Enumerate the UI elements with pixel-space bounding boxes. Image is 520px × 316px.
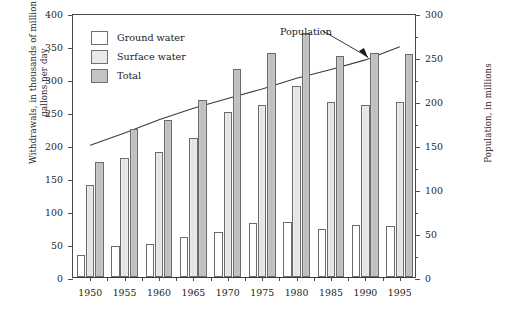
y-axis-right-minor-tick (415, 213, 418, 214)
population-annotation-label: Population (280, 26, 332, 37)
chart-figure: Withdrawals, in thousands of million gal… (0, 0, 520, 316)
y-axis-left-tick-label: 300 (23, 75, 63, 86)
bar-ground-water-1970 (214, 232, 223, 277)
bar-ground-water-1975 (249, 223, 258, 277)
x-axis-minor-tick (245, 278, 246, 281)
bar-total-1955 (130, 129, 139, 278)
bar-surface-water-1950 (86, 185, 95, 277)
bar-ground-water-1980 (283, 222, 292, 277)
x-axis-minor-tick (211, 278, 212, 281)
x-axis-minor-tick (279, 278, 280, 281)
legend-swatch-icon (91, 50, 108, 64)
y-axis-left-tick (68, 15, 73, 16)
y-axis-left-tick-label: 50 (23, 240, 63, 251)
y-axis-right-minor-tick (415, 257, 418, 258)
x-axis-tick (193, 277, 194, 281)
x-axis-minor-tick (107, 278, 108, 281)
bar-surface-water-1965 (189, 138, 198, 277)
bar-surface-water-1970 (224, 112, 233, 277)
x-axis-tick (262, 277, 263, 281)
y-axis-right-title: Population, in millions (483, 33, 493, 193)
legend-swatch-icon (91, 69, 108, 83)
y-axis-right-tick (415, 15, 420, 16)
bar-ground-water-1950 (77, 255, 86, 277)
bar-ground-water-1965 (180, 237, 189, 277)
bar-surface-water-1990 (361, 105, 370, 277)
y-axis-right-tick-label: 150 (425, 141, 465, 152)
x-axis-tick (228, 277, 229, 281)
y-axis-right-tick (415, 235, 420, 236)
bar-total-1970 (233, 69, 242, 277)
bar-surface-water-1955 (120, 158, 129, 277)
legend-item-total: Total (91, 66, 203, 85)
y-axis-right-tick-label: 0 (425, 273, 465, 284)
bar-surface-water-1980 (292, 86, 301, 277)
y-axis-left-tick (68, 147, 73, 148)
y-axis-right-tick-label: 100 (425, 185, 465, 196)
y-axis-left-tick-label: 0 (23, 273, 63, 284)
y-axis-right-tick (415, 279, 420, 280)
y-axis-left-tick-label: 150 (23, 174, 63, 185)
bar-ground-water-1960 (146, 244, 155, 277)
y-axis-left-tick (68, 48, 73, 49)
x-axis-tick (400, 277, 401, 281)
y-axis-left-tick-label: 400 (23, 9, 63, 20)
bar-surface-water-1960 (155, 152, 164, 277)
x-axis-tick (125, 277, 126, 281)
y-axis-right-minor-tick (415, 37, 418, 38)
bar-surface-water-1995 (396, 102, 405, 277)
y-axis-right-tick-label: 200 (425, 97, 465, 108)
y-axis-left-tick (68, 81, 73, 82)
legend-item-label: Surface water (117, 51, 186, 62)
x-axis-minor-tick (142, 278, 143, 281)
y-axis-left-tick-label: 200 (23, 141, 63, 152)
y-axis-left-tick (68, 180, 73, 181)
x-axis-minor-tick (314, 278, 315, 281)
y-axis-left-tick-label: 250 (23, 108, 63, 119)
bar-total-1960 (164, 120, 173, 277)
legend-item-label: Total (117, 70, 141, 81)
y-axis-right-minor-tick (415, 169, 418, 170)
y-axis-right-tick-label: 50 (425, 229, 465, 240)
bar-surface-water-1985 (327, 102, 336, 277)
legend-swatch-icon (91, 31, 108, 45)
x-axis-tick (297, 277, 298, 281)
y-axis-right-minor-tick (415, 81, 418, 82)
y-axis-right-tick (415, 59, 420, 60)
legend-item-label: Ground water (117, 32, 185, 43)
y-axis-right-tick (415, 103, 420, 104)
chart-legend: Ground waterSurface waterTotal (91, 28, 203, 85)
y-axis-right-minor-tick (415, 125, 418, 126)
x-axis-tick (90, 277, 91, 281)
bar-total-1995 (405, 54, 414, 277)
bar-total-1975 (267, 53, 276, 277)
legend-item-surface-water: Surface water (91, 47, 203, 66)
x-axis-tick (159, 277, 160, 281)
y-axis-right-tick (415, 191, 420, 192)
x-axis-minor-tick (348, 278, 349, 281)
bar-ground-water-1995 (386, 226, 395, 277)
y-axis-left-tick-label: 350 (23, 42, 63, 53)
bar-total-1980 (302, 33, 311, 277)
bar-total-1990 (370, 53, 379, 277)
x-axis-tick (331, 277, 332, 281)
x-axis-minor-tick (383, 278, 384, 281)
y-axis-right-tick (415, 147, 420, 148)
bar-total-1985 (336, 56, 345, 277)
bar-total-1965 (198, 100, 207, 277)
legend-item-ground-water: Ground water (91, 28, 203, 47)
y-axis-left-tick (68, 213, 73, 214)
y-axis-right-tick-label: 250 (425, 53, 465, 64)
bar-total-1950 (95, 162, 104, 278)
bar-ground-water-1985 (318, 229, 327, 277)
x-axis-tick-label: 1995 (377, 287, 423, 298)
bar-ground-water-1990 (352, 225, 361, 277)
y-axis-left-tick (68, 114, 73, 115)
y-axis-left-tick-label: 100 (23, 207, 63, 218)
bar-ground-water-1955 (111, 246, 120, 277)
bar-surface-water-1975 (258, 105, 267, 277)
y-axis-left-tick (68, 279, 73, 280)
y-axis-right-tick-label: 300 (425, 9, 465, 20)
x-axis-tick (365, 277, 366, 281)
x-axis-minor-tick (176, 278, 177, 281)
